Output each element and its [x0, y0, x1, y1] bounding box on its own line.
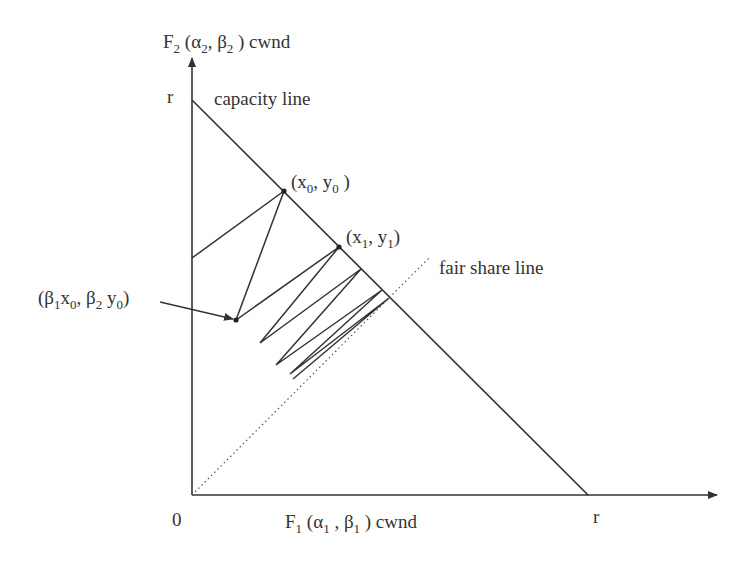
y-label-beta: β: [217, 31, 227, 52]
cwnd-trajectory: [192, 191, 389, 379]
point-decrease: [233, 317, 238, 322]
point-decrease-label: (β1x0, β2 y0): [38, 288, 129, 307]
y-label-f: F: [163, 31, 174, 52]
y-axis-label: F2 (α2, β2 ) cwnd: [163, 32, 290, 51]
y-label-alpha: α: [191, 31, 201, 52]
point-x1-y1-label: (x1, y1): [346, 227, 400, 246]
decrease-annotation-arrow: [160, 302, 233, 319]
capacity-line-label: capacity line: [214, 89, 311, 108]
p1-close: ): [394, 226, 400, 247]
origin-label: 0: [172, 510, 182, 529]
dec-x: x: [61, 287, 71, 308]
dec-comma: , β: [77, 287, 96, 308]
p0-mid: , y: [313, 171, 332, 192]
aimd-phase-diagram: [0, 0, 752, 561]
point-x0-y0: [281, 188, 286, 193]
x-label-close: ) cwnd: [360, 511, 417, 532]
dec-y: y: [102, 287, 116, 308]
point-x0-y0-label: (x0, y0 ): [291, 172, 350, 191]
fair-share-line: [192, 257, 430, 495]
x-axis-label: F1 (α1 , β1 ) cwnd: [285, 512, 417, 531]
x-label-beta: β: [344, 511, 354, 532]
p1-mid: , y: [368, 226, 387, 247]
y-max-label: r: [167, 87, 173, 106]
x-max-label: r: [593, 507, 599, 526]
p0-close: ): [339, 171, 350, 192]
x-label-open: (: [302, 511, 313, 532]
p0-open: (x: [291, 171, 307, 192]
x-label-comma: ,: [330, 511, 344, 532]
dec-close: ): [123, 287, 129, 308]
y-label-comma: ,: [208, 31, 218, 52]
point-x1-y1: [336, 244, 341, 249]
y-label-open: (: [180, 31, 191, 52]
fair-share-line-label: fair share line: [439, 258, 543, 277]
p1-open: (x: [346, 226, 362, 247]
x-label-f: F: [285, 511, 296, 532]
dec-open: (β: [38, 287, 54, 308]
y-label-close: ) cwnd: [233, 31, 290, 52]
x-label-alpha: α: [313, 511, 323, 532]
